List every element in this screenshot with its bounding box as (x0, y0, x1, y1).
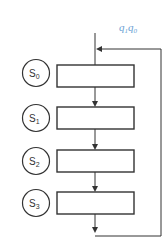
stage-row-3: S3 (23, 190, 135, 217)
down-arrow-icon (92, 186, 98, 192)
q1-q0-label: q1q0 (119, 21, 138, 35)
stage-row-2: S2 (23, 148, 135, 175)
stage-row-1: S1 (23, 105, 135, 132)
down-arrow-icon (92, 144, 98, 150)
stage-box-2 (57, 150, 134, 172)
stage-box-3 (57, 192, 134, 214)
stage-row-0: S0 (23, 60, 135, 88)
feedback-arrow-icon (96, 46, 102, 52)
stage-box-0 (57, 65, 134, 87)
state-sequence-diagram: q1q0 S0 S1 S2 S3 (0, 0, 167, 242)
down-arrow-icon (92, 227, 98, 233)
stage-box-1 (57, 107, 134, 129)
down-arrow-icon (92, 101, 98, 107)
